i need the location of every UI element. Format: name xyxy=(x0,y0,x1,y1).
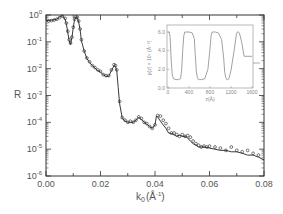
x-tick-label: 0.04 xyxy=(146,179,164,189)
x-tick-label: 0.00 xyxy=(37,179,55,189)
inset-x-tick-label: 0 xyxy=(167,89,170,95)
data-point xyxy=(192,140,195,143)
data-point xyxy=(246,149,249,152)
x-tick-label: 0.02 xyxy=(92,179,110,189)
data-point xyxy=(173,132,176,135)
y-tick-label: 100 xyxy=(29,9,43,20)
inset-x-axis-label: z(Å) xyxy=(205,96,215,102)
data-point xyxy=(181,133,184,136)
inset-y-tick-label: 4.0 xyxy=(158,47,165,53)
data-point xyxy=(208,145,211,148)
inset-x-tick-label: 1600 xyxy=(246,89,257,95)
y-tick-label: 10-2 xyxy=(27,63,43,74)
y-tick-label: 10-4 xyxy=(27,116,43,127)
x-axis-label: k0(Å-1) xyxy=(136,190,165,203)
inset-x-tick-label: 1200 xyxy=(225,89,236,95)
inset-y-tick-label: 6.0 xyxy=(158,29,165,35)
data-point xyxy=(165,122,168,125)
data-point xyxy=(197,144,200,147)
data-point xyxy=(167,127,170,130)
inset-x-tick-label: 800 xyxy=(206,89,215,95)
data-point xyxy=(195,142,198,145)
data-point xyxy=(159,115,162,118)
inset-y-axis-label: ρ(z) × 10⁶ (Å⁻²) xyxy=(146,40,152,75)
reflectivity-figure: 10010-110-210-310-410-510-60.000.020.040… xyxy=(0,0,283,214)
data-point xyxy=(257,154,260,157)
data-point xyxy=(252,152,255,155)
inset-y-tick-label: 2.0 xyxy=(158,66,165,72)
inset-density-profile: 0400800120016000.02.04.06.0 z(Å) ρ(z) × … xyxy=(146,25,260,102)
data-point xyxy=(175,133,178,136)
x-tick-label: 0.06 xyxy=(201,179,219,189)
y-tick-label: 10-5 xyxy=(27,143,43,154)
y-axis-label: R xyxy=(14,89,21,100)
data-point xyxy=(230,146,233,149)
inset-y-tick-label: 0.0 xyxy=(158,85,165,91)
y-tick-label: 10-3 xyxy=(27,90,43,101)
inset-x-tick-label: 400 xyxy=(185,89,194,95)
data-point xyxy=(214,146,217,149)
y-tick-label: 10-1 xyxy=(27,36,43,47)
data-point xyxy=(186,134,189,137)
data-point xyxy=(189,136,192,139)
x-tick-label: 0.08 xyxy=(255,179,273,189)
data-point xyxy=(162,119,165,122)
data-point xyxy=(241,150,244,153)
data-point xyxy=(219,147,222,150)
